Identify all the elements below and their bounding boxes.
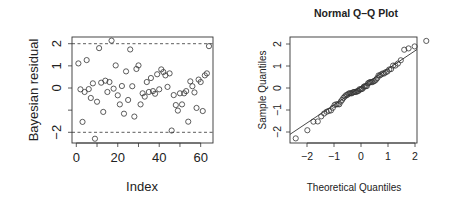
data-point bbox=[86, 87, 91, 92]
data-point bbox=[165, 84, 170, 89]
data-point bbox=[188, 79, 193, 84]
residual-plot: 0204060 −2021 Index Bayesian residual bbox=[26, 37, 213, 194]
data-point bbox=[194, 105, 199, 110]
data-point bbox=[173, 102, 178, 107]
data-point bbox=[90, 81, 95, 86]
residual-x-label: Index bbox=[126, 179, 158, 194]
data-point bbox=[111, 86, 116, 91]
figure: 0204060 −2021 Index Bayesian residual No… bbox=[0, 0, 455, 205]
data-point bbox=[94, 99, 99, 104]
data-point bbox=[190, 84, 195, 89]
x-tick-label: 0 bbox=[73, 150, 80, 165]
x-tick-label: 2 bbox=[412, 150, 418, 162]
data-point bbox=[128, 47, 133, 52]
data-point bbox=[132, 114, 137, 119]
data-point bbox=[97, 46, 102, 51]
residual-y-label: Bayesian residual bbox=[26, 39, 41, 142]
y-tick-label: −2 bbox=[49, 125, 64, 140]
y-tick-label: 2 bbox=[271, 41, 283, 47]
residual-reference-lines bbox=[72, 44, 213, 133]
data-point bbox=[148, 75, 153, 80]
qq-y-axis: −2−1012 bbox=[271, 41, 290, 138]
qq-point bbox=[319, 114, 324, 119]
data-point bbox=[80, 119, 85, 124]
qq-plot: Normal Q–Q Plot −2−1012 −2−1012 Theoreti… bbox=[257, 7, 429, 193]
data-point bbox=[76, 61, 81, 66]
y-tick-label: 0 bbox=[49, 84, 64, 91]
data-point bbox=[130, 84, 135, 89]
figure-canvas: 0204060 −2021 Index Bayesian residual No… bbox=[0, 0, 455, 205]
x-tick-label: 20 bbox=[111, 150, 125, 165]
qq-plot-title: Normal Q–Q Plot bbox=[314, 7, 399, 19]
data-point bbox=[155, 72, 160, 77]
y-tick-label: 0 bbox=[271, 85, 283, 91]
data-point bbox=[126, 97, 131, 102]
y-tick-label: 2 bbox=[49, 40, 64, 47]
data-point bbox=[175, 108, 180, 113]
data-point bbox=[101, 109, 106, 114]
x-tick-label: 60 bbox=[193, 150, 207, 165]
data-point bbox=[123, 69, 128, 74]
qq-x-axis: −2−1012 bbox=[301, 143, 418, 162]
data-point bbox=[117, 102, 122, 107]
data-point bbox=[186, 119, 191, 124]
x-tick-label: 1 bbox=[385, 150, 391, 162]
data-point bbox=[200, 108, 205, 113]
y-tick-label: 1 bbox=[49, 62, 64, 69]
data-point bbox=[144, 79, 149, 84]
qq-point bbox=[424, 38, 429, 43]
residual-points bbox=[76, 38, 212, 141]
data-point bbox=[105, 89, 110, 94]
residual-plot-frame bbox=[72, 37, 213, 143]
data-point bbox=[179, 102, 184, 107]
qq-y-label: Sample Quantiles bbox=[257, 51, 268, 130]
qq-point bbox=[293, 136, 298, 141]
x-tick-label: −1 bbox=[328, 150, 340, 162]
data-point bbox=[88, 95, 93, 100]
data-point bbox=[119, 83, 124, 88]
data-point bbox=[167, 71, 172, 76]
x-tick-label: 0 bbox=[358, 150, 364, 162]
data-point bbox=[157, 87, 162, 92]
y-tick-label: −2 bbox=[271, 126, 283, 138]
x-tick-label: 40 bbox=[152, 150, 166, 165]
residual-x-axis: 0204060 bbox=[73, 143, 208, 165]
residual-y-axis: −2021 bbox=[49, 40, 72, 140]
data-point bbox=[171, 92, 176, 97]
data-point bbox=[109, 38, 114, 43]
data-point bbox=[192, 90, 197, 95]
data-point bbox=[92, 136, 97, 141]
qq-point bbox=[412, 44, 417, 49]
qq-points bbox=[293, 38, 429, 141]
data-point bbox=[206, 44, 211, 49]
y-tick-label: 1 bbox=[271, 63, 283, 69]
data-point bbox=[84, 57, 89, 62]
y-tick-label: −1 bbox=[271, 104, 283, 116]
qq-point bbox=[305, 128, 310, 133]
data-point bbox=[113, 63, 118, 68]
data-point bbox=[121, 111, 126, 116]
x-tick-label: −2 bbox=[301, 150, 313, 162]
data-point bbox=[115, 93, 120, 98]
qq-x-label: Theoretical Quantiles bbox=[307, 182, 402, 193]
data-point bbox=[138, 102, 143, 107]
